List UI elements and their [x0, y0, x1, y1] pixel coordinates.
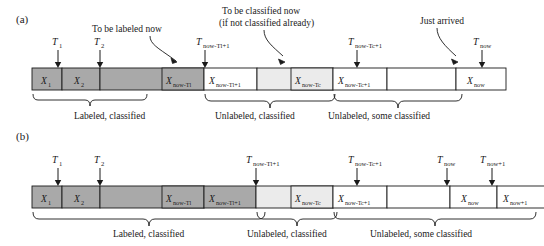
cell-base: X	[40, 76, 48, 86]
cell-base: X	[502, 194, 510, 204]
tick-base: T	[348, 154, 355, 165]
tick-arrowhead-t1	[55, 62, 61, 68]
cell-sub: now	[474, 81, 485, 88]
figure-timeline-diagram: (a) To be labeled now To be classified n…	[0, 0, 544, 246]
cell-sub: now-Tc+1	[345, 81, 370, 88]
tick-sub: now-Tl+1	[203, 42, 229, 49]
brace-labeled-classified-a	[33, 94, 147, 106]
tick-arrowhead-b-t2	[97, 180, 103, 186]
tick-arrows-panel-b	[58, 168, 492, 184]
panel-b-label: (b)	[16, 130, 29, 143]
annotation-just-arrived: Just arrived	[420, 16, 464, 26]
tick-sub: now+1	[487, 160, 505, 167]
brace-labeled-classified-b	[33, 212, 265, 226]
timeline-bar-panel-a	[32, 68, 506, 90]
cell-b-x1	[32, 186, 62, 208]
annotation-to-be-labeled-now: To be labeled now	[92, 24, 162, 34]
annotation-to-be-classified-now-line1: To be classified now	[222, 6, 300, 16]
cell-sub: 1	[48, 199, 51, 206]
cell-base: X	[466, 76, 474, 86]
tick-base: T	[52, 154, 59, 165]
tick-label-t-now-tl-1: T now-Tl+1	[196, 36, 229, 49]
cell-base: X	[460, 194, 468, 204]
cell-base: X	[294, 76, 302, 86]
braces-panel-b	[33, 212, 536, 226]
tick-base: T	[94, 36, 101, 47]
cell-sub: now-Tl+1	[216, 81, 241, 88]
tick-arrowhead-t-now-tc-1	[354, 62, 360, 68]
tick-arrowheads-panel-a	[55, 62, 485, 68]
cell-sub: now	[468, 199, 479, 206]
cell-base: X	[165, 194, 173, 204]
tick-label-t-now-tc-1: T now-Tc+1	[348, 36, 382, 49]
tick-base: T	[246, 154, 253, 165]
tick-label-t2: T 2	[94, 36, 104, 49]
tick-sub: now-Tl+1	[253, 160, 279, 167]
leader-arrowhead-just-arrived	[452, 59, 459, 65]
tick-label-b-t1: T 1	[52, 154, 62, 167]
cell-sub: 1	[48, 81, 51, 88]
cell-gap-white	[387, 68, 456, 90]
tick-arrowhead-b-t-now-tc-1	[354, 180, 360, 186]
brace-unlabeled-classified-a	[205, 94, 335, 108]
cell-base: X	[73, 76, 81, 86]
cell-base: X	[165, 76, 173, 86]
tick-sub: 1	[59, 42, 62, 49]
leader-curve-to-be-labeled-now	[150, 36, 176, 61]
brace-label-unlabeled-some-classified-a: Unlabeled, some classified	[328, 111, 430, 121]
tick-label-b-t-now-1: T now+1	[480, 154, 505, 167]
tick-base: T	[52, 36, 59, 47]
tick-label-b-t-now-tc-1: T now-Tc+1	[348, 154, 382, 167]
brace-label-unlabeled-classified-b: Unlabeled, classified	[247, 229, 327, 239]
leader-arrowhead-to-be-classified-now	[279, 59, 286, 65]
tick-label-t1: T 1	[52, 36, 62, 49]
brace-label-labeled-classified-a: Labeled, classified	[74, 111, 145, 121]
tick-arrowhead-b-t-now-1	[489, 180, 495, 186]
cell-sub: now-Tl+1	[216, 199, 241, 206]
tick-label-b-t2: T 2	[94, 154, 104, 167]
tick-arrows-panel-a	[58, 50, 482, 66]
annotation-to-be-classified-now-line2: (if not classified already)	[219, 18, 314, 29]
brace-label-labeled-classified-b: Labeled, classified	[113, 229, 184, 239]
tick-base: T	[94, 154, 101, 165]
tick-arrowhead-b-t1	[55, 180, 61, 186]
cell-sub: now-Tc+1	[345, 199, 370, 206]
cell-b-gap-white	[387, 186, 450, 208]
tick-base: T	[196, 36, 203, 47]
cell-base: X	[40, 194, 48, 204]
cell-base: X	[208, 194, 216, 204]
tick-label-b-t-now-tl-1: T now-Tl+1	[246, 154, 279, 167]
tick-arrowhead-t2	[97, 62, 103, 68]
cell-sub: now+1	[510, 199, 527, 206]
cell-sub: now-Tc	[302, 199, 321, 206]
tick-base: T	[473, 36, 480, 47]
cell-base: X	[337, 194, 345, 204]
panel-a: (a) To be labeled now To be classified n…	[16, 6, 506, 121]
brace-unlabeled-some-classified-a	[334, 94, 462, 108]
cell-base: X	[73, 194, 81, 204]
tick-sub: 1	[59, 160, 62, 167]
tick-sub: now-Tc+1	[355, 160, 382, 167]
braces-panel-a	[33, 94, 462, 108]
leader-curve-to-be-classified-now	[264, 30, 283, 56]
tick-sub: 2	[101, 160, 104, 167]
tick-sub: now	[480, 42, 492, 49]
tick-arrowhead-t-now	[479, 62, 485, 68]
tick-arrowhead-b-t-now	[444, 180, 450, 186]
tick-base: T	[348, 36, 355, 47]
tick-base: T	[480, 154, 487, 165]
tick-arrowhead-t-now-tl-1	[202, 62, 208, 68]
cell-sub: now-Tc	[302, 81, 321, 88]
brace-label-unlabeled-some-classified-b: Unlabeled, some classified	[370, 229, 472, 239]
tick-base: T	[437, 154, 444, 165]
tick-label-t-now: T now	[473, 36, 492, 49]
tick-arrowheads-panel-b	[55, 180, 495, 186]
tick-sub: 2	[101, 42, 104, 49]
panel-a-label: (a)	[16, 13, 29, 26]
tick-label-b-t-now: T now	[437, 154, 456, 167]
cell-sub: 2	[81, 81, 84, 88]
cell-base: X	[208, 76, 216, 86]
cell-sub: now-Tl	[173, 199, 191, 206]
tick-arrowhead-b-t-now-tl-1	[253, 180, 259, 186]
tick-sub: now-Tc+1	[355, 42, 382, 49]
